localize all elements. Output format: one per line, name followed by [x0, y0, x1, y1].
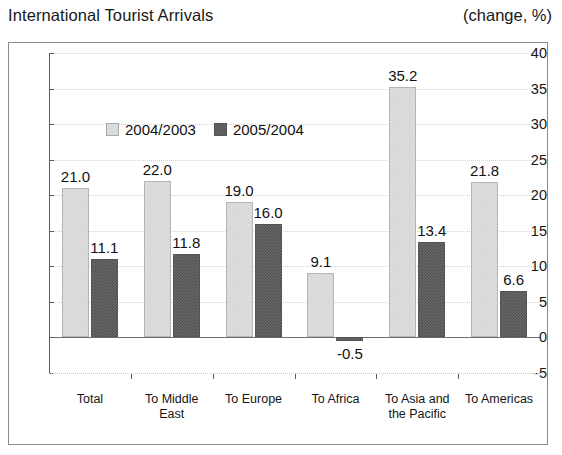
y-axis-tick-label: 25: [513, 152, 547, 168]
chart-legend: 2004/20032005/2004: [106, 119, 304, 139]
y-axis-tick-mark: [49, 302, 54, 303]
x-axis-category-label: To Americas: [458, 392, 540, 407]
legend-label: 2005/2004: [233, 121, 304, 138]
gridline: [49, 53, 540, 54]
y-axis-tick-mark: [49, 231, 54, 232]
zero-line: [49, 337, 540, 338]
gridline: [49, 302, 540, 303]
gridline: [49, 89, 540, 90]
bar-value-label: 35.2: [378, 67, 427, 84]
bar: [336, 337, 363, 341]
x-axis-category-label: To Europe: [213, 392, 295, 407]
bar: [307, 273, 334, 338]
bar-value-label: 21.0: [51, 168, 100, 185]
bar-value-label: 22.0: [133, 161, 182, 178]
bar: [173, 254, 200, 338]
x-axis: TotalTo MiddleEastTo EuropeTo AfricaTo A…: [49, 388, 540, 436]
bar: [91, 259, 118, 338]
x-axis-tick-mark: [376, 374, 377, 379]
y-axis-tick-mark: [49, 53, 54, 54]
bar-value-label: 16.0: [244, 204, 293, 221]
bar-value-label: -0.5: [325, 345, 374, 362]
x-axis-tick-mark: [131, 374, 132, 379]
bar-value-label: 19.0: [215, 182, 264, 199]
y-axis-tick-mark: [49, 195, 54, 196]
bar: [255, 224, 282, 338]
y-axis-tick-label: 20: [513, 187, 547, 203]
y-axis-tick-label: 40: [513, 45, 547, 61]
bar: [471, 182, 498, 337]
chart-plot-area: 21.011.122.011.819.016.09.1-0.535.213.42…: [49, 53, 540, 373]
legend-swatch-icon: [106, 123, 119, 136]
y-axis-tick-label: 5: [513, 294, 547, 310]
y-axis-tick-mark: [49, 337, 54, 338]
y-axis-tick-label: 30: [513, 116, 547, 132]
y-axis-tick-label: 15: [513, 223, 547, 239]
bar-value-label: 9.1: [296, 253, 345, 270]
bar-value-label: 11.1: [80, 239, 129, 256]
y-axis-tick-mark: [49, 89, 54, 90]
legend-label: 2004/2003: [125, 121, 196, 138]
gridline: [49, 160, 540, 161]
x-axis-tick-mark: [213, 374, 214, 379]
y-axis-tick-mark: [49, 160, 54, 161]
bar: [418, 242, 445, 337]
y-axis-line: [49, 53, 50, 374]
x-axis-category-label: To Asia andthe Pacific: [376, 392, 458, 422]
bar: [226, 202, 253, 337]
y-axis-tick-label: 35: [513, 81, 547, 97]
bar-value-label: 13.4: [407, 222, 456, 239]
page-title: International Tourist Arrivals: [8, 6, 213, 25]
y-axis-tick-label: 0: [513, 329, 547, 345]
chart-header: International Tourist Arrivals (change, …: [0, 0, 562, 38]
legend-item[interactable]: 2004/2003: [106, 121, 196, 138]
gridline: [49, 195, 540, 196]
x-axis-category-label: To Africa: [295, 392, 377, 407]
bar: [144, 181, 171, 337]
bar-value-label: 21.8: [460, 162, 509, 179]
y-axis-tick-label: 10: [513, 258, 547, 274]
bar: [389, 87, 416, 337]
y-axis-tick-mark: [49, 124, 54, 125]
gridline: [49, 231, 540, 232]
legend-item[interactable]: 2005/2004: [214, 121, 304, 138]
bar: [62, 188, 89, 337]
x-axis-tick-mark: [458, 374, 459, 379]
gridline: [49, 266, 540, 267]
bar-value-label: 11.8: [162, 234, 211, 251]
chart-plot-frame: 21.011.122.011.819.016.09.1-0.535.213.42…: [8, 42, 548, 445]
x-axis-tick-mark: [295, 374, 296, 379]
chart-unit-label: (change, %): [463, 6, 552, 25]
x-axis-category-label: Total: [49, 392, 131, 407]
x-axis-category-label: To MiddleEast: [131, 392, 213, 422]
legend-swatch-icon: [214, 123, 227, 136]
y-axis-tick-mark: [49, 266, 54, 267]
